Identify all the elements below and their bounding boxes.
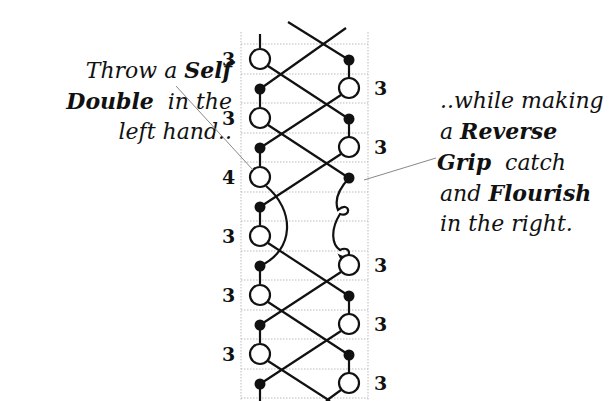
- catch-dot-right: [344, 350, 355, 361]
- throw-circle-right: [339, 78, 359, 98]
- throw-number: 3: [374, 372, 387, 394]
- catch-dot-left: [255, 143, 266, 154]
- right-throw-numbers: 3 3 3 3 3: [374, 77, 387, 394]
- throw-circle-right: [339, 373, 359, 393]
- catch-dot-left: [255, 261, 266, 272]
- catch-dot-right: [344, 114, 355, 125]
- catch-dot-left: [255, 320, 266, 331]
- throw-circle-left: [250, 344, 270, 364]
- throw-number: 4: [222, 166, 235, 188]
- throw-paths: [260, 22, 349, 401]
- throw-circle-left: [250, 108, 270, 128]
- juggling-ladder-diagram: 3 3 4 3 3 3 3 3 3 3 3: [0, 0, 612, 401]
- throw-number: 3: [222, 284, 235, 306]
- throw-circle-right: [339, 314, 359, 334]
- caption-pointers: [176, 86, 436, 180]
- right-caption-pointer: [364, 158, 436, 180]
- catch-dot-right: [344, 291, 355, 302]
- throw-circle-left: [250, 49, 270, 69]
- throw-number: 3: [374, 77, 387, 99]
- throw-circle-right: [339, 137, 359, 157]
- catch-dot-left: [255, 84, 266, 95]
- throw-number: 3: [374, 136, 387, 158]
- throw-number: 3: [222, 225, 235, 247]
- throw-circle-right: [339, 255, 359, 275]
- throw-number: 3: [222, 48, 235, 70]
- throw-circle-left: [250, 285, 270, 305]
- catch-dot-right: [344, 173, 355, 184]
- throw-circle-left: [250, 226, 270, 246]
- catch-dot-left: [255, 379, 266, 390]
- catch-dot-left: [255, 202, 266, 213]
- throw-number: 3: [222, 107, 235, 129]
- catch-dot-right: [344, 55, 355, 66]
- throw-number: 3: [374, 313, 387, 335]
- left-throw-numbers: 3 3 4 3 3 3: [222, 48, 235, 365]
- throw-number: 3: [374, 254, 387, 276]
- throw-number: 3: [222, 343, 235, 365]
